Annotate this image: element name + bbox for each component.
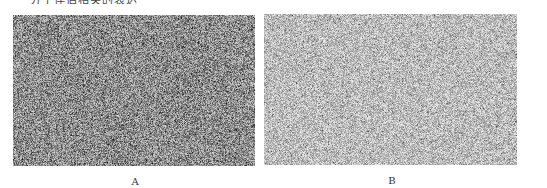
figure-caption-cutoff: 分子伴侣相关的表达 xyxy=(30,0,178,4)
panel-label-b: B xyxy=(388,175,395,186)
micrograph-panel-b xyxy=(264,14,517,165)
panel-label-a: A xyxy=(131,176,138,187)
caption-text: 分子伴侣相关的表达 xyxy=(30,0,178,4)
micrograph-panel-a xyxy=(13,15,255,166)
